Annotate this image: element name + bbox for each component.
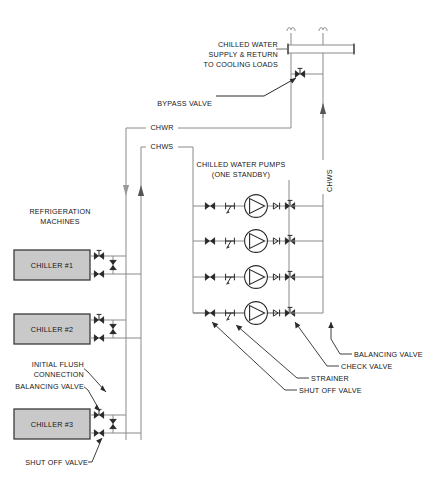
shut-off-valve-left-leader	[92, 438, 102, 462]
chiller-1-label: CHILLER #1	[16, 261, 88, 271]
chiller-3-label: CHILLER #3	[16, 420, 88, 430]
check-valve-leader	[295, 322, 327, 366]
initial-flush-leader-elbow	[84, 369, 88, 372]
balancing-valve-arrowhead	[328, 322, 334, 328]
pump-symbol[interactable]	[245, 230, 268, 253]
strainer-symbol[interactable]	[226, 310, 235, 321]
balancing-valve-symbol[interactable]	[94, 314, 103, 323]
pump-row	[193, 266, 295, 289]
balancing-valve-symbol[interactable]	[285, 235, 294, 244]
strainer-symbol[interactable]	[226, 238, 235, 249]
chws-label: CHWS	[148, 142, 176, 152]
strainer-symbol[interactable]	[226, 274, 235, 285]
chiller-2-label: CHILLER #2	[16, 325, 88, 335]
pump-symbol[interactable]	[245, 302, 268, 325]
pump-row	[193, 195, 295, 218]
pumps-title-label: CHILLED WATER PUMPS	[189, 160, 293, 170]
shut-off-valve-label: SHUT OFF VALVE	[299, 386, 387, 396]
pumps-subtitle-label: (ONE STANDBY)	[189, 170, 293, 180]
balancing-valve-label: BALANCING VALVE	[354, 350, 427, 360]
shut-off-valve-symbol[interactable]	[94, 430, 103, 437]
initial-flush-label: INITIAL FLUSH	[8, 360, 84, 370]
pump-row	[193, 302, 295, 325]
chws-flow-arrow-up	[138, 185, 144, 196]
balancing-valve-left-label: BALANCING VALVE	[2, 382, 84, 392]
shut-off-valve-symbol[interactable]	[94, 271, 103, 278]
bypass-valve-label: BYPASS VALVE	[150, 99, 212, 109]
balancing-valve-symbol[interactable]	[285, 271, 294, 280]
initial-flush-balancing-valve-symbol[interactable]	[110, 419, 117, 428]
balancing-valve-left-leader-elbow	[84, 387, 88, 390]
shut-off-valve-left-label: SHUT OFF VALVE	[6, 458, 88, 468]
shut-off-valve-leader	[212, 322, 285, 390]
balancing-valve-symbol[interactable]	[285, 307, 294, 316]
pump-symbol[interactable]	[245, 195, 268, 218]
shut-off-valve-symbol[interactable]	[205, 310, 214, 317]
balancing-valve-symbol[interactable]	[94, 409, 103, 418]
to-cooling-loads-label: TO COOLING LOADS	[190, 60, 278, 70]
strainer-leader	[236, 325, 297, 378]
strainer-symbol[interactable]	[226, 203, 235, 214]
chws-main-line	[141, 147, 193, 440]
pump-row	[193, 230, 295, 253]
balancing-valve-left-arrowhead	[94, 404, 100, 411]
balancing-valve-symbol[interactable]	[94, 250, 103, 259]
chws-riser-flow-arrow	[320, 103, 326, 114]
initial-flush-balancing-valve-symbol[interactable]	[110, 260, 117, 269]
initial-flush-balancing-valve-symbol[interactable]	[110, 324, 117, 333]
supply-return-label: SUPPLY & RETURN	[198, 50, 278, 60]
chws-riser-label: CHWS	[325, 152, 335, 192]
pump-symbol[interactable]	[245, 266, 268, 289]
chwr-flow-arrow-down	[123, 185, 129, 196]
connection-label: CONNECTION	[8, 370, 84, 380]
shut-off-valve-symbol[interactable]	[205, 274, 214, 281]
balancing-valve-symbol[interactable]	[285, 200, 294, 209]
bypass-valve-symbol[interactable]	[295, 68, 304, 77]
chwr-label: CHWR	[148, 123, 176, 133]
machines-label: MACHINES	[24, 217, 96, 227]
refrigeration-label: REFRIGERATION	[24, 207, 96, 217]
shut-off-valve-symbol[interactable]	[94, 335, 103, 342]
shut-off-valve-symbol[interactable]	[205, 203, 214, 210]
check-valve-label: CHECK VALVE	[341, 362, 421, 372]
chilled-water-label: CHILLED WATER	[198, 40, 278, 50]
header-connector-bar	[276, 43, 354, 54]
cooling-loads-risers	[287, 28, 327, 118]
strainer-label: STRAINER	[311, 374, 391, 384]
shut-off-valve-symbol[interactable]	[205, 238, 214, 245]
